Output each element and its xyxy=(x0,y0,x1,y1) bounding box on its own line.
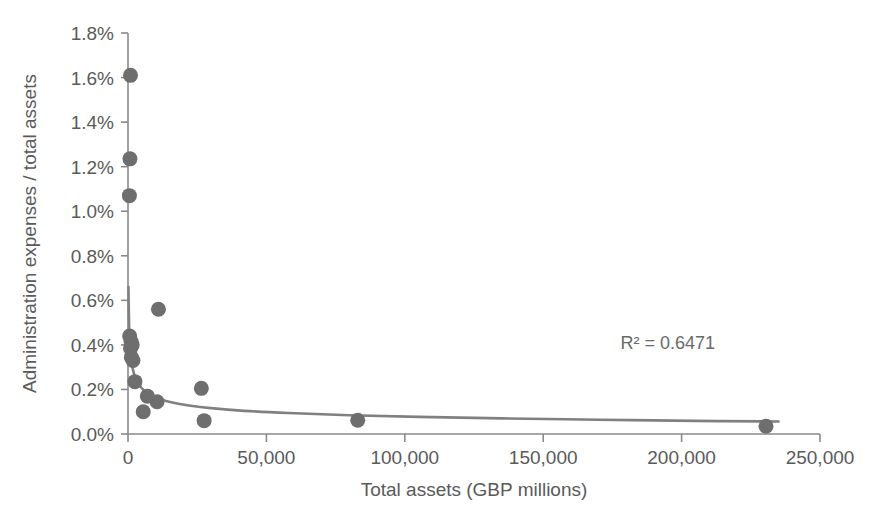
data-point-group xyxy=(122,68,774,434)
chart-page: 0.0%0.2%0.4%0.6%0.8%1.0%1.2%1.4%1.6%1.8%… xyxy=(0,0,886,528)
y-axis-tick-marks xyxy=(121,33,128,434)
y-tick-label: 0.4% xyxy=(71,335,114,356)
y-tick-label: 0.8% xyxy=(71,246,114,267)
data-point xyxy=(759,419,774,434)
r-squared-annotation: R² = 0.6471 xyxy=(621,333,716,353)
y-axis-title: Administration expenses / total assets xyxy=(19,74,40,393)
y-tick-label: 1.6% xyxy=(71,68,114,89)
y-axis-tick-labels: 0.0%0.2%0.4%0.6%0.8%1.0%1.2%1.4%1.6%1.8% xyxy=(71,23,114,445)
x-tick-label: 0 xyxy=(123,447,134,468)
y-tick-label: 0.6% xyxy=(71,290,114,311)
x-tick-label: 200,000 xyxy=(647,447,716,468)
data-point xyxy=(123,68,138,83)
x-axis-tick-labels: 050,000100,000150,000200,000250,000 xyxy=(123,447,855,468)
x-tick-label: 250,000 xyxy=(786,447,855,468)
y-tick-label: 0.2% xyxy=(71,379,114,400)
x-axis-tick-marks xyxy=(128,434,820,442)
y-tick-label: 0.0% xyxy=(71,424,114,445)
y-tick-label: 1.4% xyxy=(71,112,114,133)
data-point xyxy=(127,374,142,389)
data-point xyxy=(194,381,209,396)
data-point xyxy=(125,353,140,368)
y-tick-label: 1.8% xyxy=(71,23,114,44)
data-point xyxy=(197,413,212,428)
data-point xyxy=(122,188,137,203)
data-point xyxy=(151,302,166,317)
data-point xyxy=(350,413,365,428)
x-tick-label: 100,000 xyxy=(370,447,439,468)
y-tick-label: 1.0% xyxy=(71,201,114,222)
x-tick-label: 50,000 xyxy=(237,447,295,468)
data-point xyxy=(136,404,151,419)
scatter-chart: 0.0%0.2%0.4%0.6%0.8%1.0%1.2%1.4%1.6%1.8%… xyxy=(0,0,886,528)
y-tick-label: 1.2% xyxy=(71,157,114,178)
trendline-curve xyxy=(129,287,779,422)
x-tick-label: 150,000 xyxy=(509,447,578,468)
data-point xyxy=(150,394,165,409)
data-point xyxy=(122,151,137,166)
x-axis-title: Total assets (GBP millions) xyxy=(361,479,588,500)
